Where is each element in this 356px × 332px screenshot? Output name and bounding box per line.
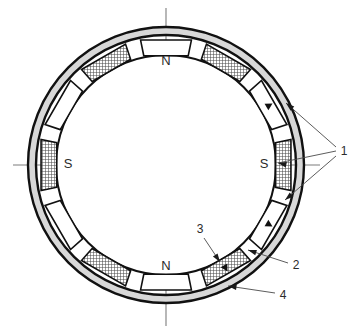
callout-1-text: 1 xyxy=(341,144,348,158)
pole-n-top: N xyxy=(161,53,170,68)
figure-canvas: NSNS 1234 xyxy=(0,0,356,332)
magnet-band-inner-wall xyxy=(56,55,276,275)
magnet-segment-9-hatched xyxy=(41,140,57,191)
pole-s-left: S xyxy=(64,156,73,171)
pole-n-bottom: N xyxy=(161,258,170,273)
callout-2-text: 2 xyxy=(293,258,300,272)
magnet-ring-figure: NSNS 1234 xyxy=(0,0,356,332)
pole-s-right: S xyxy=(260,156,269,171)
magnet-segment-6-plain xyxy=(141,274,192,290)
magnet-band-layer xyxy=(56,55,276,275)
callout-4-text: 4 xyxy=(280,288,287,302)
callout-3-text: 3 xyxy=(197,222,204,236)
